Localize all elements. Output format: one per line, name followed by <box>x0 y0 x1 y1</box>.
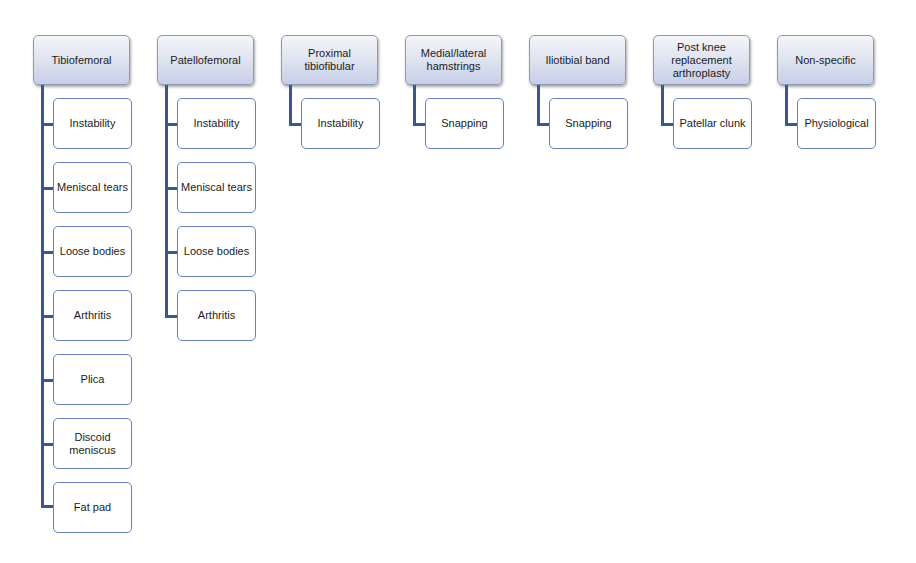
connector-horizontal <box>165 123 177 126</box>
category-box-post-knee-replacement: Post knee replacement arthroplasty <box>653 35 750 85</box>
child-box-instability: Instability <box>177 98 256 149</box>
child-box-snapping: Snapping <box>549 98 628 149</box>
child-box-loose-bodies: Loose bodies <box>177 226 256 277</box>
connector-vertical <box>289 85 292 126</box>
connector-horizontal <box>165 251 177 254</box>
child-box-patellar-clunk: Patellar clunk <box>673 98 752 149</box>
category-box-medial-lateral-hamstrings: Medial/lateral hamstrings <box>405 35 502 85</box>
child-box-physiological: Physiological <box>797 98 876 149</box>
connector-horizontal <box>661 123 673 126</box>
connector-vertical <box>785 85 788 126</box>
connector-horizontal <box>41 251 53 254</box>
child-box-loose-bodies: Loose bodies <box>53 226 132 277</box>
connector-horizontal <box>41 379 53 382</box>
child-box-arthritis: Arthritis <box>177 290 256 341</box>
connector-vertical <box>537 85 540 126</box>
connector-horizontal <box>41 505 53 508</box>
category-box-tibiofemoral: Tibiofemoral <box>33 35 130 85</box>
category-box-patellofemoral: Patellofemoral <box>157 35 254 85</box>
child-box-instability: Instability <box>53 98 132 149</box>
connector-horizontal <box>41 123 53 126</box>
child-box-snapping: Snapping <box>425 98 504 149</box>
connector-horizontal <box>289 123 301 126</box>
connector-vertical <box>41 85 44 505</box>
child-box-arthritis: Arthritis <box>53 290 132 341</box>
knee-clicking-causes-diagram: Tibiofemoral Instability Meniscal tears … <box>0 0 916 563</box>
child-box-meniscal-tears: Meniscal tears <box>177 162 256 213</box>
connector-vertical <box>413 85 416 126</box>
child-box-fat-pad: Fat pad <box>53 482 132 533</box>
category-box-non-specific: Non-specific <box>777 35 874 85</box>
connector-vertical <box>165 85 168 318</box>
connector-horizontal <box>41 315 53 318</box>
category-box-proximal-tibiofibular: Proximal tibiofibular <box>281 35 378 85</box>
child-box-discoid-meniscus: Discoid meniscus <box>53 418 132 469</box>
child-box-instability: Instability <box>301 98 380 149</box>
connector-horizontal <box>165 315 177 318</box>
child-box-plica: Plica <box>53 354 132 405</box>
connector-horizontal <box>41 187 53 190</box>
child-box-meniscal-tears: Meniscal tears <box>53 162 132 213</box>
connector-horizontal <box>165 187 177 190</box>
connector-horizontal <box>413 123 425 126</box>
connector-horizontal <box>41 443 53 446</box>
category-box-iliotibial-band: Iliotibial band <box>529 35 626 85</box>
connector-horizontal <box>785 123 797 126</box>
connector-vertical <box>661 85 664 126</box>
connector-horizontal <box>537 123 549 126</box>
